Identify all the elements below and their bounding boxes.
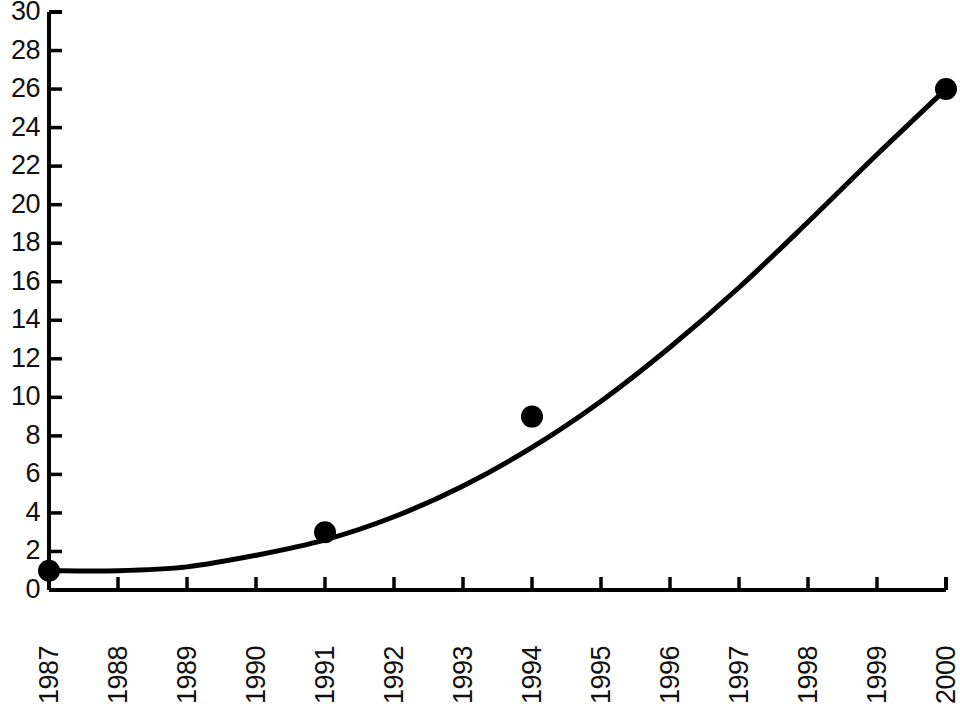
x-tick-label: 1991 [312, 646, 339, 704]
x-tick-label: 1990 [243, 646, 270, 704]
x-tick-label: 1995 [588, 646, 615, 704]
data-point-marker [935, 78, 957, 100]
x-tick-label: 1989 [174, 646, 201, 704]
x-tick-label: 1996 [657, 646, 684, 704]
x-tick-label: 1999 [864, 646, 891, 704]
x-tick-label: 1993 [450, 646, 477, 704]
data-point-marker [38, 560, 60, 582]
fitted-curve [49, 89, 946, 571]
y-tick-label: 26 [11, 75, 40, 102]
y-tick-label: 10 [11, 383, 40, 410]
data-points [38, 78, 957, 582]
x-tick-label: 1997 [726, 646, 753, 704]
y-tick-label: 0 [25, 576, 40, 603]
y-tick-label: 18 [11, 229, 40, 256]
x-tick-label: 1992 [381, 646, 408, 704]
y-tick-label: 14 [11, 306, 40, 333]
y-tick-label: 4 [25, 499, 40, 526]
y-tick-label: 2 [25, 537, 40, 564]
x-tick-label: 1998 [795, 646, 822, 704]
y-tick-label: 16 [11, 268, 40, 295]
y-tick-label: 22 [11, 152, 40, 179]
y-tick-label: 12 [11, 345, 40, 372]
x-tick-label: 2000 [933, 646, 960, 704]
trend-line [49, 89, 946, 571]
y-tick-label: 6 [25, 460, 40, 487]
x-tick-label: 1987 [36, 646, 63, 704]
y-tick-label: 28 [11, 37, 40, 64]
y-tick-label: 20 [11, 191, 40, 218]
data-point-marker [521, 406, 543, 428]
y-tick-label: 24 [11, 114, 40, 141]
data-point-marker [314, 521, 336, 543]
y-tick-label: 30 [11, 0, 40, 25]
x-tick-label: 1994 [519, 646, 546, 704]
axes [49, 12, 946, 590]
y-tick-label: 8 [25, 422, 40, 449]
x-tick-label: 1988 [105, 646, 132, 704]
